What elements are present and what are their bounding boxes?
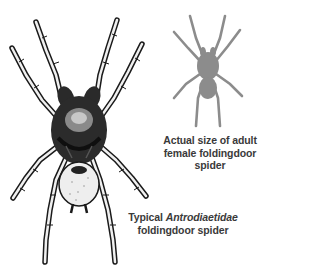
caption-line: spider	[160, 159, 258, 172]
silhouette-body	[197, 47, 219, 99]
cephalothorax	[51, 96, 107, 164]
species-caption: Typical Antrodiaetidae foldingdoor spide…	[108, 211, 258, 236]
abdomen	[59, 162, 99, 213]
caption-prefix: Typical	[128, 211, 166, 223]
actual-size-silhouette	[168, 8, 248, 133]
actual-size-caption: Actual size of adult female foldingdoor …	[160, 134, 258, 172]
caption-line: Actual size of adult	[160, 134, 258, 147]
caption-line: female foldingdoor	[160, 147, 258, 160]
caption-line: foldingdoor spider	[108, 224, 258, 237]
family-name: Antrodiaetidae	[166, 211, 238, 223]
caption-line: Typical Antrodiaetidae	[108, 211, 258, 224]
